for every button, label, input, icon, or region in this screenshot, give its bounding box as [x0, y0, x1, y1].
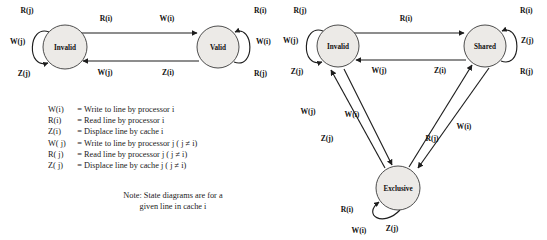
right-label-exclusive-to-invalid-zj: Z(j): [321, 134, 334, 143]
figure-note: Note: State diagrams are for a given lin…: [48, 190, 298, 213]
right-label-shared-loop-ri: R(i): [520, 6, 533, 15]
legend-description: Write to line by processor j ( j ≠ i): [84, 138, 298, 149]
legend-term: R( j): [48, 149, 75, 160]
legend-equals: =: [75, 104, 84, 115]
legend-term: W( j): [48, 138, 75, 149]
legend-equals: =: [75, 126, 84, 137]
legend-term: W(i): [48, 104, 75, 115]
right-state-exclusive-label: Exclusive: [383, 185, 412, 193]
right-label-invalid-loop-wj: W(j): [283, 36, 299, 45]
left-label-invalid-loop-zj: Z(j): [18, 69, 31, 78]
legend-row: W( j) = Write to line by processor j ( j…: [48, 138, 298, 149]
left-label-valid-loop-wi: W(i): [256, 37, 271, 46]
legend-equals: =: [75, 138, 84, 149]
left-label-invalid-loop-wj: W(j): [10, 37, 26, 46]
right-label-invalid-to-exclusive-wi: W(i): [345, 110, 360, 119]
left-label-valid-to-invalid-wj: W(j): [97, 68, 113, 77]
legend-description: Displace line by cache j ( j ≠ i): [84, 160, 298, 171]
legend-term: Z(i): [48, 126, 75, 137]
left-state-invalid-label: Invalid: [54, 44, 76, 52]
left-label-valid-loop-ri: R(i): [254, 6, 267, 15]
right-diagram: Invalid Shared Exclusive R(j) W(j) Z(j) …: [283, 6, 534, 235]
legend-row: W(i) = Write to line by processor i: [48, 104, 298, 115]
right-label-exclusive-loop-wi: W(i): [352, 226, 367, 235]
legend-equals: =: [75, 115, 84, 126]
legend-equals: =: [75, 149, 84, 160]
right-exclusive-to-invalid-edge: [331, 70, 385, 168]
legend-row: Z( j) = Displace line by cache j ( j ≠ i…: [48, 160, 298, 171]
legend-description: Read line by processor i: [84, 115, 298, 126]
right-label-shared-to-exclusive-wi: W(i): [457, 122, 472, 131]
legend-description: Write to line by processor i: [84, 104, 298, 115]
left-state-valid-label: Valid: [210, 44, 226, 52]
legend-row: R(i) = Read line by processor i: [48, 115, 298, 126]
right-state-invalid-label: Invalid: [327, 43, 349, 51]
figure-note-line-1: Note: State diagrams are for a: [48, 190, 298, 201]
legend-term: R(i): [48, 115, 75, 126]
left-label-invalid-to-valid-wi: W(i): [160, 14, 175, 23]
right-label-exclusive-to-shared-rj: R(j): [425, 134, 439, 143]
left-diagram: Invalid Valid R(j) W(j) Z(j) R(i) W(i) R…: [10, 6, 271, 78]
right-label-shared-to-invalid-wj: W(j): [371, 66, 387, 75]
right-shared-to-exclusive-edge: [418, 68, 489, 168]
legend-description: Read line by processor j ( j ≠ i): [84, 149, 298, 160]
right-label-shared-to-invalid-zi: Z(i): [434, 66, 447, 75]
legend-row: Z(i) = Displace line by cache i: [48, 126, 298, 137]
legend-term: Z( j): [48, 160, 75, 171]
left-label-valid-to-invalid-zi: Z(i): [162, 68, 175, 77]
legend-description: Displace line by cache i: [84, 126, 298, 137]
right-label-invalid-loop-rj: R(j): [293, 6, 307, 15]
right-label-exclusive-loop-zj: Z(j): [386, 224, 399, 233]
right-label-invalid-loop-zj: Z(j): [291, 67, 304, 76]
right-label-shared-loop-zj: Z(j): [521, 36, 534, 45]
right-state-shared-label: Shared: [474, 43, 496, 51]
legend-equals: =: [75, 160, 84, 171]
left-label-invalid-to-valid-ri: R(i): [100, 14, 113, 23]
right-label-exclusive-to-invalid-wj: W(j): [300, 107, 316, 116]
legend-row: R( j) = Read line by processor j ( j ≠ i…: [48, 149, 298, 160]
figure-note-line-2: given line in cache i: [48, 201, 298, 212]
left-label-invalid-loop-rj: R(j): [20, 6, 34, 15]
right-exclusive-to-shared-edge: [409, 65, 472, 167]
left-label-valid-loop-rj: R(j): [254, 69, 268, 78]
right-label-exclusive-loop-ri: R(i): [341, 205, 354, 214]
right-label-shared-loop-rj: R(j): [520, 67, 534, 76]
notation-legend: W(i) = Write to line by processor i R(i)…: [48, 104, 298, 171]
right-label-invalid-to-shared-ri: R(i): [400, 14, 413, 23]
